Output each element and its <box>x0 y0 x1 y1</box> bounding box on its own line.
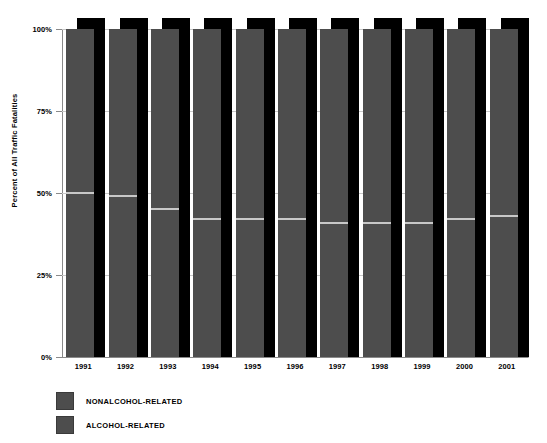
y-tick-label-50: 50% <box>24 189 52 198</box>
legend-label: ALCOHOL-RELATED <box>86 421 165 430</box>
segment-divider-1999 <box>405 222 433 224</box>
y-tick-label-25: 25% <box>24 271 52 280</box>
segment-divider-1996 <box>278 218 306 220</box>
segment-divider-1991 <box>66 192 94 194</box>
legend-label: NONALCOHOL-RELATED <box>86 397 183 406</box>
segment-divider-2001 <box>490 215 518 217</box>
y-axis-title: Percent of All Traffic Fatalities <box>10 71 19 231</box>
bar-1993[interactable] <box>151 29 179 357</box>
bar-1998[interactable] <box>363 29 391 357</box>
y-tick-mark-25 <box>56 275 62 276</box>
y-tick-mark-0 <box>56 357 62 358</box>
bar-2001[interactable] <box>490 29 518 357</box>
chart-root: Percent of All Traffic Fatalities 0%25%5… <box>0 0 547 443</box>
bar-1994[interactable] <box>193 29 221 357</box>
legend-swatch <box>56 392 74 410</box>
bar-2000[interactable] <box>447 29 475 357</box>
segment-divider-1997 <box>320 222 348 224</box>
y-tick-label-0: 0% <box>24 353 52 362</box>
bar-1996[interactable] <box>278 29 306 357</box>
legend-item[interactable]: NONALCOHOL-RELATED <box>56 391 183 411</box>
clipped-title-strip <box>6 1 246 8</box>
x-axis-line <box>62 357 529 358</box>
x-tick-label-2001: 2001 <box>480 362 534 371</box>
bar-1991[interactable] <box>66 29 94 357</box>
y-tick-mark-50 <box>56 193 62 194</box>
segment-divider-1992 <box>109 195 137 197</box>
y-tick-mark-100 <box>56 29 62 30</box>
y-tick-label-100: 100% <box>24 25 52 34</box>
segment-divider-1994 <box>193 218 221 220</box>
segment-divider-1995 <box>236 218 264 220</box>
segment-divider-2000 <box>447 218 475 220</box>
bar-1997[interactable] <box>320 29 348 357</box>
legend: NONALCOHOL-RELATEDALCOHOL-RELATED <box>56 391 183 439</box>
bar-1995[interactable] <box>236 29 264 357</box>
legend-swatch <box>56 416 74 434</box>
bar-1999[interactable] <box>405 29 433 357</box>
legend-item[interactable]: ALCOHOL-RELATED <box>56 415 183 435</box>
bar-1992[interactable] <box>109 29 137 357</box>
segment-divider-1998 <box>363 222 391 224</box>
y-tick-mark-75 <box>56 111 62 112</box>
segment-divider-1993 <box>151 208 179 210</box>
y-tick-label-75: 75% <box>24 107 52 116</box>
